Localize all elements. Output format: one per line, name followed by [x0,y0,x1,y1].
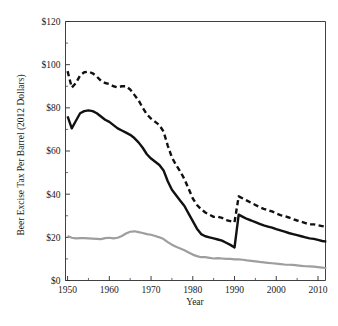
y-tick-label: $20 [46,233,61,243]
y-tick-label: $100 [42,60,61,70]
plot-frame-rect [66,22,326,281]
x-tick-label: 1990 [225,285,244,295]
series-state-tax-grey [68,231,327,268]
y-tick-label: $60 [46,146,61,156]
x-axis-title-text: Year [186,297,204,307]
beer-excise-tax-chart-figure: Beer Excise Tax Per Barrel (2012 Dollars… [0,0,338,326]
x-axis-title: Year [186,297,204,307]
y-tick-label: $40 [46,190,61,200]
y-axis-title: Beer Excise Tax Per Barrel (2012 Dollars… [16,74,27,235]
data-series-group [68,71,327,268]
x-tick-label: 2010 [308,285,327,295]
series-total-tax-dashed [68,71,327,226]
series-federal-tax-solid [68,110,327,247]
chart-canvas: Beer Excise Tax Per Barrel (2012 Dollars… [0,0,338,326]
x-tick-label: 1950 [58,285,77,295]
x-tick-label: 1960 [100,285,119,295]
x-axis-ticks: 1950196019701980199020002010 [58,276,328,295]
x-tick-label: 1970 [142,285,161,295]
y-axis-title-text: Beer Excise Tax Per Barrel (2012 Dollars… [16,74,27,235]
plot-frame [66,22,326,281]
y-tick-label: $120 [42,17,61,27]
x-tick-label: 1980 [183,285,202,295]
x-tick-label: 2000 [267,285,286,295]
y-tick-label: $80 [46,103,61,113]
